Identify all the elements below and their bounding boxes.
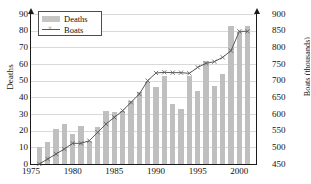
- boats-data-marker: [54, 152, 58, 156]
- boats-line-series: [31, 14, 256, 164]
- y-axis-left-tick-label: 60: [8, 60, 28, 69]
- y-axis-right-line: [256, 10, 257, 164]
- legend-item-boats: Boats: [42, 24, 98, 35]
- boats-data-marker: [137, 92, 141, 96]
- boats-data-marker: [96, 130, 100, 134]
- y-axis-right-title: Boats (thousands): [303, 24, 311, 110]
- y-axis-right-tick-label: 500: [272, 143, 296, 152]
- y-axis-left-tick-label: 90: [8, 10, 28, 19]
- boats-data-marker: [112, 115, 116, 119]
- y-axis-right-tick-label: 800: [272, 43, 296, 52]
- x-axis-tick-label: 2000: [230, 166, 248, 176]
- legend-line-x-swatch-icon: [42, 26, 60, 33]
- legend-label-deaths: Deaths: [64, 14, 88, 24]
- y-axis-left-tick-label: 70: [8, 43, 28, 52]
- boats-data-marker: [146, 79, 150, 83]
- chart-legend: Deaths Boats: [38, 11, 102, 36]
- y-axis-right-tick-label: 850: [272, 26, 296, 35]
- x-axis-line: [30, 164, 257, 165]
- y-axis-left-tick-label: 40: [8, 93, 28, 102]
- y-axis-right-ticks: 450500550600650700750800850900: [272, 0, 296, 184]
- x-axis-tick-label: 1990: [147, 166, 165, 176]
- chart-canvas: Deaths Boats (thousands) 010203040506070…: [0, 0, 310, 184]
- y-axis-right-tick-label: 750: [272, 60, 296, 69]
- y-axis-left-ticks: 0102030405060708090: [8, 0, 28, 184]
- x-axis-tick-label: 1980: [64, 166, 82, 176]
- boats-data-marker: [104, 122, 108, 126]
- x-axis-tick-label: 1975: [22, 166, 40, 176]
- y-axis-left-tick-label: 20: [8, 126, 28, 135]
- boats-line-path: [39, 31, 247, 164]
- legend-bar-swatch-icon: [42, 16, 60, 22]
- y-axis-right-tick-label: 650: [272, 93, 296, 102]
- boats-data-marker: [129, 100, 133, 104]
- legend-label-boats: Boats: [64, 25, 83, 35]
- boats-data-marker: [229, 49, 233, 53]
- x-axis-ticks: 197519801985199019952000: [0, 166, 310, 182]
- y-axis-right-tick-label: 900: [272, 10, 296, 19]
- boats-data-marker: [46, 157, 50, 161]
- x-axis-tick-label: 1995: [189, 166, 207, 176]
- boats-data-marker: [121, 109, 125, 113]
- boats-data-marker: [196, 65, 200, 69]
- y-axis-left-tick-label: 30: [8, 110, 28, 119]
- y-axis-left-tick-label: 80: [8, 26, 28, 35]
- y-axis-right-tick-label: 700: [272, 76, 296, 85]
- x-axis-tick-label: 1985: [105, 166, 123, 176]
- boats-data-marker: [221, 55, 225, 59]
- y-axis-right-tick-label: 550: [272, 126, 296, 135]
- y-axis-left-tick-label: 10: [8, 143, 28, 152]
- boats-data-marker: [62, 147, 66, 151]
- y-axis-left-tick-label: 50: [8, 76, 28, 85]
- y-axis-right-tick-label: 600: [272, 110, 296, 119]
